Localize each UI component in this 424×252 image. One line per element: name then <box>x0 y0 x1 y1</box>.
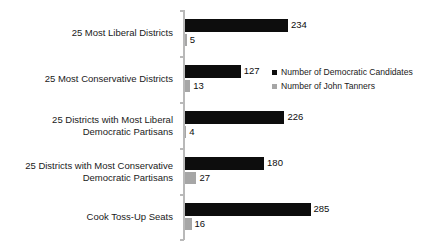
bar-democratic-candidates-4 <box>185 203 311 216</box>
bar-value-primary-4: 285 <box>314 204 330 214</box>
category-label-0: 25 Most Liberal Districts <box>0 27 173 39</box>
category-label-2: 25 Districts with Most Liberal Democrati… <box>0 114 173 137</box>
bar-row-primary-0: 234 <box>185 19 307 32</box>
bar-democratic-candidates-2 <box>185 111 285 124</box>
plot-area: 25 Most Liberal Districts 234 5 25 Most … <box>0 10 424 240</box>
legend-label-primary: Number of Democratic Candidates <box>281 67 413 77</box>
bar-row-secondary-1: 13 <box>185 80 204 93</box>
bar-chart: 25 Most Liberal Districts 234 5 25 Most … <box>0 0 424 252</box>
bar-row-secondary-3: 27 <box>185 172 211 185</box>
bar-democratic-candidates-3 <box>185 157 265 170</box>
bar-democratic-candidates-0 <box>185 19 288 32</box>
category-label-1: 25 Most Conservative Districts <box>0 73 173 85</box>
bar-group-3: 25 Districts with Most Conservative Demo… <box>0 148 424 194</box>
bar-row-secondary-4: 16 <box>185 218 206 231</box>
bar-john-tanners-0 <box>185 34 187 47</box>
legend-item-john-tanners: Number of John Tanners <box>272 80 424 92</box>
category-label-4: Cook Toss-Up Seats <box>0 211 173 223</box>
bar-value-primary-3: 180 <box>267 158 283 168</box>
bar-group-0: 25 Most Liberal Districts 234 5 <box>0 10 424 56</box>
bar-row-primary-3: 180 <box>185 157 283 170</box>
bar-pair-0: 234 5 <box>185 10 424 56</box>
bar-row-secondary-0: 5 <box>185 34 196 47</box>
bar-john-tanners-2 <box>185 126 187 139</box>
bar-john-tanners-1 <box>185 80 191 93</box>
bar-value-secondary-0: 5 <box>190 35 195 45</box>
bar-john-tanners-3 <box>185 172 197 185</box>
bar-row-primary-1: 127 <box>185 65 260 78</box>
bar-value-secondary-4: 16 <box>195 219 206 229</box>
bar-value-secondary-1: 13 <box>193 81 204 91</box>
bar-value-primary-0: 234 <box>291 20 307 30</box>
bar-pair-4: 285 16 <box>185 194 424 240</box>
bar-group-2: 25 Districts with Most Liberal Democrati… <box>0 102 424 148</box>
bar-row-secondary-2: 4 <box>185 126 195 139</box>
bar-john-tanners-4 <box>185 218 192 231</box>
bar-pair-2: 226 4 <box>185 102 424 148</box>
bar-row-primary-4: 285 <box>185 203 330 216</box>
bar-value-primary-2: 226 <box>287 112 303 122</box>
legend-swatch-icon-primary <box>272 70 277 75</box>
bar-democratic-candidates-1 <box>185 65 241 78</box>
bar-row-primary-2: 226 <box>185 111 304 124</box>
bar-value-secondary-3: 27 <box>199 173 210 183</box>
legend-item-democratic-candidates: Number of Democratic Candidates <box>272 66 424 78</box>
bar-group-4: Cook Toss-Up Seats 285 16 <box>0 194 424 240</box>
bar-pair-3: 180 27 <box>185 148 424 194</box>
bar-value-primary-1: 127 <box>244 66 260 76</box>
legend-swatch-icon-secondary <box>272 84 277 89</box>
chart-legend: Number of Democratic Candidates Number o… <box>272 66 424 94</box>
bar-value-secondary-2: 4 <box>189 127 194 137</box>
legend-label-secondary: Number of John Tanners <box>281 81 375 91</box>
category-label-3: 25 Districts with Most Conservative Demo… <box>0 160 173 183</box>
